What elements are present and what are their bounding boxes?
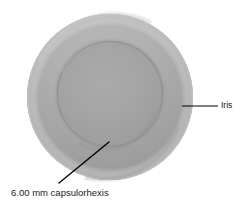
eye-diagram-figure: Iris 6.00 mm capsulorhexis [0, 0, 246, 205]
iris-label: Iris [221, 101, 232, 110]
capsulorhexis-label: 6.00 mm capsulorhexis [11, 188, 109, 198]
eye-illustration [0, 0, 246, 205]
